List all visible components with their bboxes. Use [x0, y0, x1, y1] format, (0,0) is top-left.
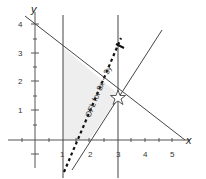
x-tick-label-2: 2 — [88, 150, 93, 159]
x-axis-label: x — [185, 134, 192, 146]
lp-graph: 1 2 3 4 5 1 2 3 4 x y OFL for 8x − 3y — [0, 0, 206, 179]
y-tick-label-2: 2 — [18, 77, 23, 86]
y-tick-label-1: 1 — [18, 106, 23, 115]
y-tick-label-4: 4 — [18, 20, 23, 29]
x-tick-label-4: 4 — [143, 150, 148, 159]
ofl-direction-marker — [116, 44, 124, 48]
y-tick-label-3: 3 — [18, 49, 23, 58]
feasible-region — [63, 47, 118, 140]
x-tick-label-5: 5 — [170, 150, 175, 159]
y-axis-label: y — [30, 3, 38, 15]
